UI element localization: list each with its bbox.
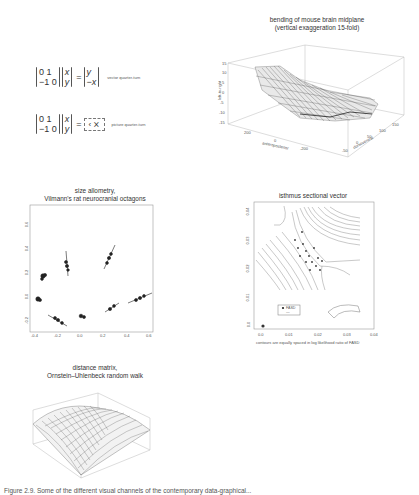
distance-matrix-surface xyxy=(0,0,419,495)
figure-caption: Figure 2.9. Some of the different visual… xyxy=(4,487,251,494)
